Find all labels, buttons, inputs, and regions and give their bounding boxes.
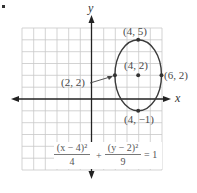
point-4-5 [136, 38, 140, 42]
x-axis-left-arrow-icon [11, 96, 19, 102]
y-axis-up-arrow-icon [89, 15, 95, 23]
point-2-2 [113, 73, 117, 77]
fraction-numerator: (y − 2)² [105, 143, 141, 155]
point-label: (4, 2) [124, 60, 148, 71]
equation-fraction-2: (y − 2)² 9 [105, 143, 141, 167]
point-6-2 [160, 73, 164, 77]
equation: (x − 4)² 4 + (y − 2)² 9 = 1 [54, 142, 162, 169]
point-label: (6, 2) [164, 70, 188, 81]
fraction-denominator: 9 [105, 155, 141, 167]
equation-fraction-1: (x − 4)² 4 [54, 143, 90, 167]
point-label: (4, 5) [123, 26, 147, 37]
x-axis-right-arrow-icon [163, 96, 171, 102]
point-label: (2, 2) [61, 77, 85, 88]
fraction-numerator: (x − 4)² [54, 143, 90, 155]
equation-plus: + [96, 151, 102, 161]
fraction-denominator: 4 [54, 155, 90, 167]
point-4-2-center [136, 73, 140, 77]
equation-equals: = 1 [144, 150, 157, 160]
point-label: (4, −1) [124, 114, 154, 125]
y-axis-label: y [88, 2, 93, 14]
label-leader-line [90, 77, 110, 83]
y-axis-down-arrow-icon [89, 171, 95, 179]
x-axis-label: x [175, 92, 180, 104]
